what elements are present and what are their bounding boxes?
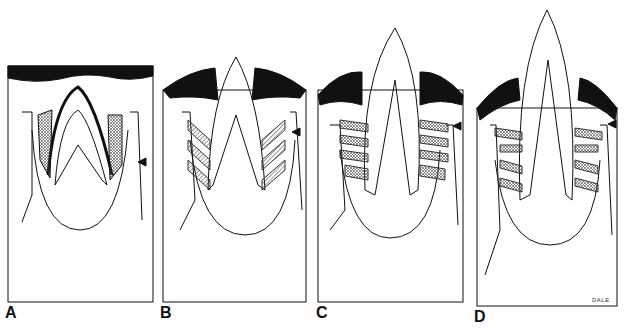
panel-label-b: B bbox=[160, 304, 172, 322]
panel-label-d: D bbox=[474, 308, 486, 326]
figure-illustration bbox=[0, 0, 630, 330]
artist-signature: DALE bbox=[592, 297, 610, 303]
panel-b bbox=[163, 57, 306, 302]
panel-label-c: C bbox=[316, 304, 328, 322]
panel-d bbox=[477, 10, 617, 306]
panel-a bbox=[8, 66, 153, 302]
panel-label-a: A bbox=[5, 304, 17, 322]
panel-c bbox=[318, 28, 463, 302]
